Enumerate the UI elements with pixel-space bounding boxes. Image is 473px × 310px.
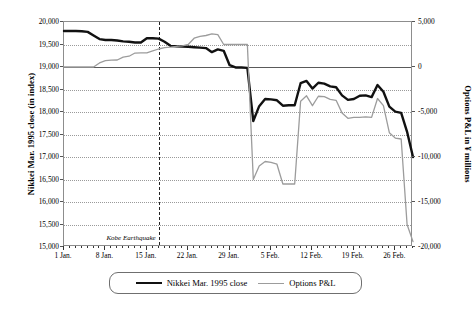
x-minor-tick [412,246,413,248]
right-tick-label: -15,000 [418,197,458,206]
x-major-tick [63,246,64,250]
kobe-earthquake-annotation: Kobe Earthquake [38,234,156,242]
legend-label-options-pl: Options P&L [289,278,335,288]
x-minor-tick [365,246,366,248]
right-tick-mark [412,201,415,202]
x-minor-tick [152,246,153,248]
left-tick-label: 17,000 [19,152,59,161]
left-tick-mark [60,134,63,135]
x-minor-tick [323,246,324,248]
left-tick-label: 15,000 [19,242,59,251]
left-tick-label: 18,500 [19,85,59,94]
series-layer [64,22,413,247]
legend-label-nikkei: Nikkei Mar. 1995 close [167,278,248,288]
right-axis-title: Options P&L in ¥ millions [463,49,473,219]
x-minor-tick [140,246,141,248]
x-major-tick [394,246,395,250]
x-tick-label: 26 Feb. [372,251,416,260]
x-minor-tick [341,246,342,248]
left-tick-label: 16,500 [19,175,59,184]
x-minor-tick [300,246,301,248]
x-minor-tick [400,246,401,248]
x-minor-tick [122,246,123,248]
x-minor-tick [181,246,182,248]
x-major-tick [229,246,230,250]
x-major-tick [353,246,354,250]
legend-line-swatch-nikkei [136,282,162,284]
x-minor-tick [110,246,111,248]
left-tick-label: 15,500 [19,220,59,229]
legend-item-options-pl: Options P&L [258,278,335,288]
x-tick-label: 19 Feb. [331,251,375,260]
x-minor-tick [217,246,218,248]
left-tick-label: 16,000 [19,197,59,206]
x-minor-tick [169,246,170,248]
x-minor-tick [205,246,206,248]
x-minor-tick [116,246,117,248]
x-minor-tick [199,246,200,248]
left-tick-label: 17,500 [19,130,59,139]
left-tick-mark [60,179,63,180]
x-minor-tick [371,246,372,248]
x-minor-tick [175,246,176,248]
x-minor-tick [211,246,212,248]
x-minor-tick [128,246,129,248]
x-major-tick [311,246,312,250]
x-minor-tick [235,246,236,248]
x-minor-tick [347,246,348,248]
x-minor-tick [69,246,70,248]
left-tick-mark [60,111,63,112]
right-tick-label: -20,000 [418,242,458,251]
right-tick-mark [412,156,415,157]
x-minor-tick [335,246,336,248]
left-tick-mark [60,21,63,22]
right-tick-label: 0 [418,62,458,71]
x-tick-label: 15 Jan. [124,251,168,260]
x-minor-tick [93,246,94,248]
x-minor-tick [359,246,360,248]
x-minor-tick [317,246,318,248]
left-tick-label: 19,000 [19,62,59,71]
left-tick-label: 19,500 [19,40,59,49]
x-tick-label: 12 Feb. [289,251,333,260]
x-minor-tick [240,246,241,248]
x-minor-tick [87,246,88,248]
plot-area [63,21,412,246]
chart-legend: Nikkei Mar. 1995 close Options P&L [109,272,362,294]
x-minor-tick [329,246,330,248]
x-tick-label: 5 Feb. [248,251,292,260]
x-tick-label: 1 Jan. [41,251,85,260]
x-minor-tick [288,246,289,248]
legend-line-swatch-options-pl [258,283,284,284]
x-minor-tick [223,246,224,248]
left-tick-mark [60,156,63,157]
x-major-tick [187,246,188,250]
left-tick-mark [60,224,63,225]
right-tick-label: -5,000 [418,107,458,116]
x-minor-tick [294,246,295,248]
series-line [64,34,413,242]
x-major-tick [270,246,271,250]
x-major-tick [104,246,105,250]
x-minor-tick [246,246,247,248]
right-tick-mark [412,111,415,112]
x-minor-tick [264,246,265,248]
left-tick-mark [60,201,63,202]
x-minor-tick [75,246,76,248]
x-minor-tick [306,246,307,248]
x-minor-tick [164,246,165,248]
right-tick-mark [412,66,415,67]
left-tick-mark [60,89,63,90]
left-tick-mark [60,66,63,67]
x-tick-label: 8 Jan. [82,251,126,260]
x-minor-tick [406,246,407,248]
x-minor-tick [193,246,194,248]
x-minor-tick [388,246,389,248]
x-minor-tick [252,246,253,248]
x-minor-tick [98,246,99,248]
x-minor-tick [282,246,283,248]
x-tick-label: 29 Jan. [207,251,251,260]
right-tick-mark [412,21,415,22]
x-minor-tick [382,246,383,248]
